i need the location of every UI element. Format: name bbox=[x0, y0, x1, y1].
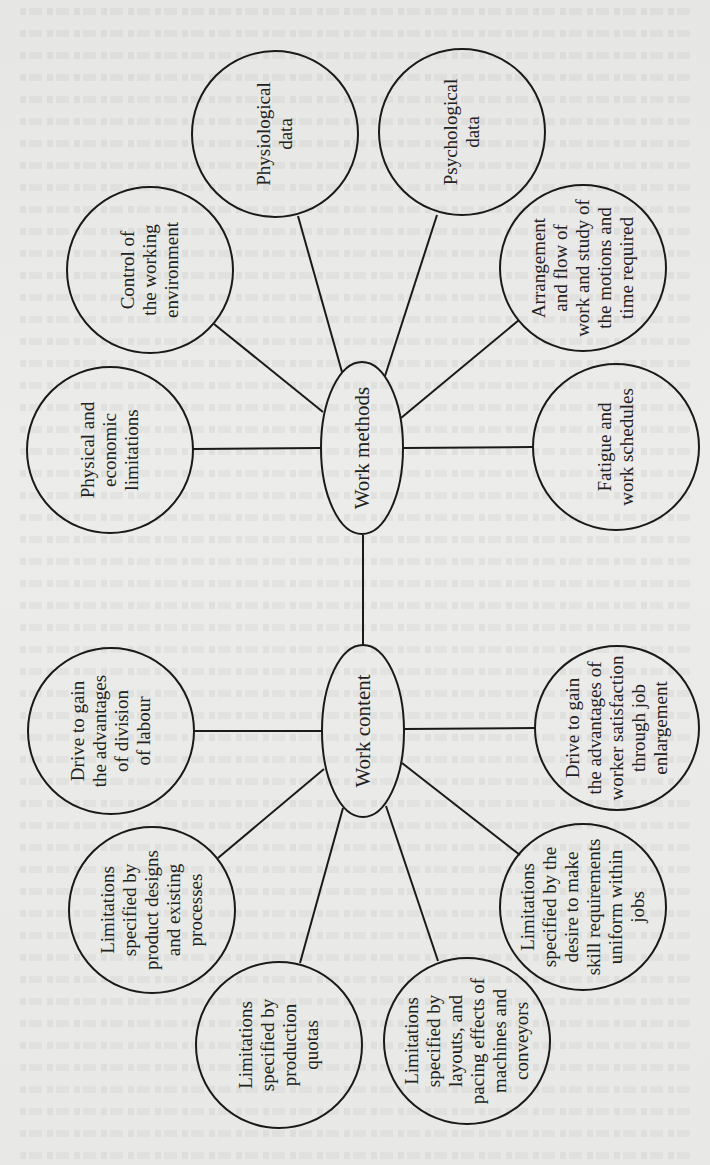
node-label-line: product designs bbox=[141, 850, 162, 970]
node-label-line: Drive to gain bbox=[562, 677, 583, 778]
node-label-line: Physical and bbox=[77, 401, 98, 498]
hub-work-content: Work content bbox=[322, 645, 404, 817]
node-limitations-production-quotas: Limitationsspecified byproductionquotas bbox=[196, 962, 362, 1128]
node-label: Psychologicaldata bbox=[440, 79, 483, 186]
node-label: Physiologicaldata bbox=[253, 82, 296, 185]
node-arrangement-flow-work: Arrangementand flow ofwork and study oft… bbox=[500, 185, 666, 351]
node-label-line: processes bbox=[185, 874, 206, 947]
node-label-line: Psychological bbox=[440, 79, 461, 186]
hub-label: Work methods bbox=[350, 387, 374, 510]
node-label: Limitationsspecified byproductionquotas bbox=[235, 998, 322, 1091]
node-label-line: layouts, and bbox=[445, 995, 466, 1087]
node-label-line: limitations bbox=[121, 409, 142, 490]
node-label-line: time required bbox=[616, 217, 637, 319]
node-label-line: enlargement bbox=[650, 681, 671, 775]
node-label-line: specified by bbox=[423, 994, 444, 1087]
edge-drive-worker-satisfaction-to-work-content bbox=[404, 728, 535, 729]
node-label-line: Physiological bbox=[253, 82, 274, 185]
node-drive-worker-satisfaction: Drive to gainthe advantages ofworker sat… bbox=[535, 646, 699, 810]
node-label: Drive to gainthe advantagesof divisionof… bbox=[67, 675, 154, 787]
node-limitations-skill-requirements: Limitationsspecified by thedesire to mak… bbox=[500, 824, 666, 990]
node-label-line: pacing effects of bbox=[467, 977, 488, 1104]
node-label: Physical andeconomiclimitations bbox=[77, 401, 142, 498]
node-label-line: Limitations bbox=[235, 1001, 256, 1089]
node-label-line: work schedules bbox=[616, 388, 637, 506]
node-drive-division-of-labour: Drive to gainthe advantagesof divisionof… bbox=[28, 648, 194, 814]
node-label-line: of division bbox=[111, 690, 132, 772]
node-psychological-data: Psychologicaldata bbox=[379, 49, 545, 215]
work-design-factors-diagram: Work methodsWork content Physiologicalda… bbox=[0, 0, 710, 1165]
node-label-line: Fatigue and bbox=[594, 402, 615, 492]
node-label-line: specified by bbox=[257, 998, 278, 1091]
hub-work-methods: Work methods bbox=[321, 362, 403, 534]
hub-label: Work content bbox=[351, 674, 375, 787]
node-label-line: Limitations bbox=[97, 866, 118, 954]
node-fatigue-work-schedules: Fatigue andwork schedules bbox=[533, 364, 699, 530]
node-label-line: economic bbox=[99, 413, 120, 487]
node-physical-economic-limitations: Physical andeconomiclimitations bbox=[27, 367, 193, 533]
edge-limitations-layouts-pacing-to-work-content bbox=[386, 806, 438, 961]
edge-physiological-data-to-work-methods bbox=[298, 216, 342, 372]
node-label-line: desire to make bbox=[561, 852, 582, 963]
node-physiological-data: Physiologicaldata bbox=[192, 51, 358, 217]
node-label-line: the motions and bbox=[594, 207, 615, 329]
node-label: Arrangementand flow ofwork and study oft… bbox=[528, 198, 637, 336]
edge-limitations-skill-requirements-to-work-content bbox=[402, 763, 520, 855]
edge-limitations-production-quotas-to-work-content bbox=[300, 808, 343, 963]
node-label: Drive to gainthe advantages ofworker sat… bbox=[562, 655, 671, 801]
node-label-line: uniform within bbox=[605, 849, 626, 964]
node-label-line: the advantages of bbox=[584, 661, 605, 795]
node-label-line: Limitations bbox=[517, 863, 538, 951]
node-limitations-layouts-pacing: Limitationsspecified bylayouts, andpacin… bbox=[384, 958, 550, 1124]
node-label-line: and existing bbox=[163, 863, 184, 956]
node-label: Limitationsspecified byproduct designsan… bbox=[97, 850, 206, 970]
node-label-line: Drive to gain bbox=[67, 680, 88, 781]
node-label-line: data bbox=[275, 118, 296, 150]
node-label: Control ofthe workingenvironment bbox=[117, 221, 182, 318]
node-label: Limitationsspecified by thedesire to mak… bbox=[517, 839, 648, 976]
node-label-line: jobs bbox=[627, 891, 648, 924]
node-label-line: production bbox=[279, 1003, 300, 1086]
edge-limitations-product-designs-to-work-content bbox=[218, 769, 324, 858]
edge-fatigue-work-schedules-to-work-methods bbox=[403, 447, 533, 448]
node-label-line: machines and bbox=[489, 989, 510, 1093]
edge-control-working-environment-to-work-methods bbox=[214, 324, 323, 412]
node-control-working-environment: Control ofthe workingenvironment bbox=[67, 187, 233, 353]
edge-psychological-data-to-work-methods bbox=[385, 215, 437, 376]
node-label-line: Arrangement bbox=[528, 217, 549, 318]
node-label-line: the working bbox=[139, 224, 160, 316]
edge-physical-economic-limitations-to-work-methods bbox=[193, 448, 321, 449]
node-label-line: work and study of bbox=[572, 198, 593, 336]
node-label-line: environment bbox=[161, 221, 182, 318]
node-label-line: specified by the bbox=[539, 847, 560, 967]
node-label-line: skill requirements bbox=[583, 839, 604, 976]
connector-lines bbox=[193, 215, 535, 963]
node-label-line: Limitations bbox=[401, 997, 422, 1085]
node-label-line: quotas bbox=[301, 1020, 322, 1070]
node-label-line: and flow of bbox=[550, 224, 571, 312]
node-label-line: the advantages bbox=[89, 675, 110, 787]
node-label: Fatigue andwork schedules bbox=[594, 388, 637, 506]
node-label-line: conveyors bbox=[511, 1002, 532, 1080]
node-label: Limitationsspecified bylayouts, andpacin… bbox=[401, 977, 532, 1104]
node-limitations-product-designs: Limitationsspecified byproduct designsan… bbox=[69, 827, 235, 993]
node-label-line: worker satisfaction bbox=[606, 655, 627, 801]
diagram-page: Work methodsWork content Physiologicalda… bbox=[0, 0, 710, 1165]
edge-arrangement-flow-work-to-work-methods bbox=[401, 320, 519, 418]
node-label-line: Control of bbox=[117, 230, 138, 309]
node-label-line: of labour bbox=[133, 696, 154, 766]
node-label-line: specified by bbox=[119, 863, 140, 956]
node-label-line: data bbox=[462, 116, 483, 148]
node-label-line: through job bbox=[628, 684, 649, 772]
